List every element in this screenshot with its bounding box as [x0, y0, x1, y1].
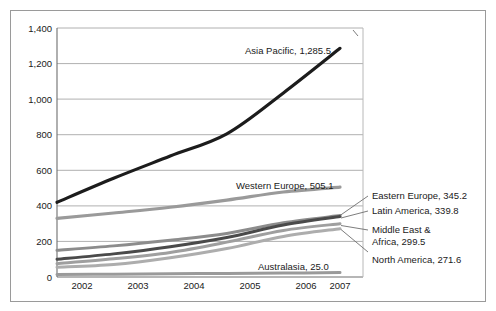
series-line-western-europe — [57, 187, 340, 218]
ytick-label-400: 400 — [36, 200, 52, 211]
right-annotations: Eastern Europe, 345.2 Latin America, 339… — [372, 190, 467, 265]
xtick-label-2003: 2003 — [127, 280, 148, 291]
annotation-latin-america: Latin America, 339.8 — [372, 205, 459, 216]
xtick-label-2002: 2002 — [71, 280, 92, 291]
ytick-label-600: 600 — [36, 165, 52, 176]
y-axis-ticks: 1,400 1,200 1,000 800 600 400 200 0 — [28, 23, 52, 283]
ytick-label-0: 0 — [47, 272, 52, 283]
annotation-western-europe: Western Europe, 505.1 — [236, 180, 334, 191]
leader-line-asia-pacific — [353, 30, 358, 36]
annotation-eastern-europe: Eastern Europe, 345.2 — [372, 190, 467, 201]
annotation-north-america: North America, 271.6 — [372, 254, 461, 265]
annotation-middle-east-africa-line2: Africa, 299.5 — [372, 236, 425, 247]
ytick-label-1000: 1,000 — [28, 94, 52, 105]
gridlines — [57, 28, 363, 241]
chart-figure: 1,400 1,200 1,000 800 600 400 200 0 2002… — [0, 0, 496, 311]
annotation-asia-pacific: Asia Pacific, 1,285.5 — [245, 45, 331, 56]
line-chart: 1,400 1,200 1,000 800 600 400 200 0 2002… — [0, 0, 496, 311]
xtick-label-2006: 2006 — [295, 280, 316, 291]
xtick-label-2004: 2004 — [183, 280, 204, 291]
xtick-label-2005: 2005 — [239, 280, 260, 291]
series-line-australasia — [57, 273, 340, 275]
xtick-label-2007: 2007 — [329, 280, 350, 291]
ytick-label-200: 200 — [36, 236, 52, 247]
leader-line-north-america — [341, 230, 368, 253]
annotation-australasia: Australasia, 25.0 — [258, 261, 329, 272]
annotation-middle-east-africa-line1: Middle East & — [372, 224, 431, 235]
ytick-label-800: 800 — [36, 129, 52, 140]
leader-line-middle-east-africa — [341, 226, 368, 231]
x-axis-ticks: 2002 2003 2004 2005 2006 2007 — [71, 280, 350, 291]
ytick-label-1400: 1,400 — [28, 23, 52, 34]
series-lines — [57, 48, 340, 274]
ytick-label-1200: 1,200 — [28, 58, 52, 69]
